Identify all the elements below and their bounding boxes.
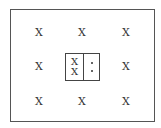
x-mark: X xyxy=(122,61,130,72)
x-mark: X xyxy=(78,96,86,107)
center-box-right-half xyxy=(84,54,99,80)
x-mark: X xyxy=(122,27,130,38)
center-box: X X xyxy=(65,53,100,81)
center-box-left-half: X X xyxy=(66,54,84,80)
x-mark: X xyxy=(35,61,43,72)
x-mark: X xyxy=(35,96,43,107)
x-mark: X xyxy=(122,96,130,107)
dot-icon xyxy=(91,62,93,64)
x-mark: X xyxy=(35,27,43,38)
x-mark: X xyxy=(78,27,86,38)
x-mark: X xyxy=(71,67,78,77)
dot-icon xyxy=(91,70,93,72)
